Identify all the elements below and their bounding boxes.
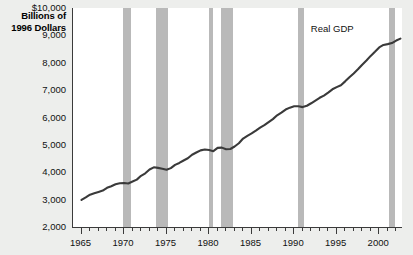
x-minor-tick-2001 [387,227,388,231]
y-tick-label-4000: 4,000 [0,167,66,177]
series-annotation-real-gdp: Real GDP [311,23,354,34]
real-gdp-line [73,8,402,227]
x-minor-tick-1988 [276,227,277,231]
x-minor-tick-1982 [225,227,226,231]
plot-area [72,8,402,227]
x-minor-tick-1977 [183,227,184,231]
x-minor-tick-1967 [98,227,99,231]
y-tick-label-9000: 9,000 [0,30,66,40]
x-minor-tick-1979 [200,227,201,231]
x-minor-tick-2002 [395,227,396,231]
y-tick-label-8000: 8,000 [0,58,66,68]
gdp-chart-figure: Billions of 1996 Dollars 2,0003,0004,000… [0,0,413,255]
x-minor-tick-1986 [259,227,260,231]
x-major-tick-1990 [293,227,294,234]
x-minor-tick-1974 [157,227,158,231]
x-minor-tick-1969 [115,227,116,231]
x-minor-tick-1998 [361,227,362,231]
x-minor-tick-1973 [149,227,150,231]
x-minor-tick-1971 [132,227,133,231]
x-minor-tick-1978 [191,227,192,231]
y-tick-label-6000: 6,000 [0,113,66,123]
y-tick-label-7000: 7,000 [0,85,66,95]
x-minor-tick-1968 [106,227,107,231]
x-minor-tick-1981 [217,227,218,231]
x-minor-tick-1983 [234,227,235,231]
x-tick-label-1995: 1995 [325,237,346,248]
x-minor-tick-1999 [370,227,371,231]
x-minor-tick-1994 [327,227,328,231]
x-major-tick-1965 [81,227,82,234]
x-major-tick-1995 [336,227,337,234]
x-major-tick-1985 [251,227,252,234]
x-minor-tick-1972 [140,227,141,231]
x-tick-label-1980: 1980 [198,237,219,248]
x-minor-tick-1991 [302,227,303,231]
x-tick-label-1970: 1970 [112,237,133,248]
y-tick-label-10000: $10,000 [0,3,66,13]
y-tick-label-3000: 3,000 [0,195,66,205]
x-minor-tick-1984 [242,227,243,231]
x-major-tick-2000 [378,227,379,234]
x-tick-label-2000: 2000 [368,237,389,248]
x-minor-tick-1966 [89,227,90,231]
x-minor-tick-1976 [174,227,175,231]
x-tick-label-1990: 1990 [283,237,304,248]
x-major-tick-1980 [208,227,209,234]
x-minor-tick-1996 [344,227,345,231]
x-major-tick-1975 [166,227,167,234]
x-minor-tick-1989 [285,227,286,231]
x-minor-tick-1987 [268,227,269,231]
y-tick-label-5000: 5,000 [0,140,66,150]
x-minor-tick-1997 [353,227,354,231]
y-tick-label-2000: 2,000 [0,222,66,232]
x-tick-label-1975: 1975 [155,237,176,248]
x-major-tick-1970 [123,227,124,234]
x-tick-label-1965: 1965 [70,237,91,248]
x-minor-tick-1992 [310,227,311,231]
x-tick-label-1985: 1985 [240,237,261,248]
x-minor-tick-1993 [319,227,320,231]
